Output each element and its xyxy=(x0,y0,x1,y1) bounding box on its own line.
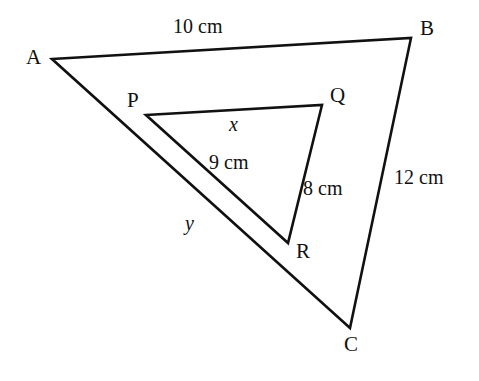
side-label-ab: 10 cm xyxy=(173,16,222,36)
vertex-label-r: R xyxy=(296,241,310,262)
side-label-pq: x xyxy=(229,114,238,134)
vertex-label-q: Q xyxy=(330,85,345,106)
vertex-label-c: C xyxy=(344,334,358,355)
triangles-svg xyxy=(0,0,479,381)
outer-triangle-abc xyxy=(52,38,411,328)
side-label-qr: 8 cm xyxy=(303,178,342,198)
side-label-rp: 9 cm xyxy=(209,152,248,172)
vertex-label-a: A xyxy=(26,47,41,68)
vertex-label-b: B xyxy=(420,18,434,39)
side-label-ca: y xyxy=(185,213,194,233)
side-label-bc: 12 cm xyxy=(394,167,443,187)
vertex-label-p: P xyxy=(127,90,139,111)
geometry-figure: A B C P Q R 10 cm 12 cm y x 8 cm 9 cm xyxy=(0,0,479,381)
